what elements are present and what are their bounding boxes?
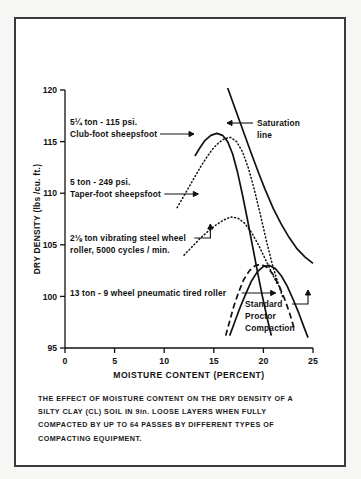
caption-line: SILTY CLAY (CL) SOIL IN 9in. LOOSE LAYER…: [38, 405, 328, 418]
figure-container: 951001051101151200510152025MOISTURE CONT…: [0, 0, 361, 479]
caption-line: THE EFFECT OF MOISTURE CONTENT ON THE DR…: [38, 392, 328, 405]
figure-caption: THE EFFECT OF MOISTURE CONTENT ON THE DR…: [38, 392, 328, 445]
caption-line: COMPACTING EQUIPMENT.: [38, 432, 328, 445]
caption-line: COMPACTED BY UP TO 64 PASSES BY DIFFEREN…: [38, 418, 328, 431]
